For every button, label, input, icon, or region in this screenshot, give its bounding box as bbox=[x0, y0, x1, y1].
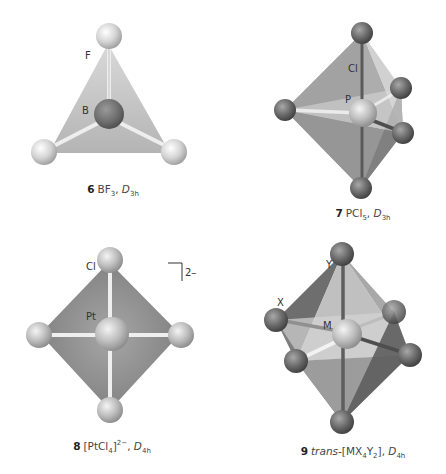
atom-cl-equatorial-left bbox=[274, 99, 296, 121]
label-m: M bbox=[323, 320, 332, 331]
atom-cl-axial-bottom bbox=[350, 177, 372, 199]
atom-b-central bbox=[94, 99, 124, 129]
atom-x-left bbox=[264, 308, 288, 332]
atom-cl-top bbox=[97, 247, 123, 273]
label-cl: Cl bbox=[348, 63, 358, 74]
atom-x-back bbox=[382, 300, 406, 324]
atom-f-top bbox=[96, 23, 122, 49]
molecule-ptcl4: Cl Pt 2– bbox=[26, 247, 196, 423]
label-y: Y bbox=[325, 259, 333, 270]
atom-p-central bbox=[349, 99, 377, 127]
figure-canvas: F B Cl P Cl Pt 2– bbox=[0, 0, 446, 474]
atom-y-bottom bbox=[330, 410, 354, 434]
charge-bracket bbox=[168, 263, 182, 281]
label-cl: Cl bbox=[86, 261, 96, 272]
label-b: B bbox=[82, 105, 89, 116]
atom-pt-central bbox=[95, 317, 129, 351]
caption-bf3: 6BF3, D3h bbox=[87, 183, 139, 198]
atom-cl-axial-top bbox=[351, 22, 373, 44]
atom-x-right bbox=[398, 343, 422, 367]
caption-mx4y2: 9trans-[MX4Y2], D4h bbox=[301, 445, 406, 460]
label-f: F bbox=[85, 50, 91, 61]
label-x: X bbox=[277, 297, 284, 308]
atom-cl-left bbox=[26, 322, 52, 348]
atom-x-front bbox=[284, 349, 308, 373]
caption-ptcl4: 8[PtCl4]2−, D4h bbox=[73, 439, 151, 455]
atom-cl-right bbox=[168, 322, 194, 348]
label-p: P bbox=[345, 94, 351, 105]
label-pt: Pt bbox=[86, 311, 96, 322]
atom-m-central bbox=[332, 319, 362, 349]
molecule-bf3: F B bbox=[31, 23, 187, 165]
atom-cl-bottom bbox=[97, 397, 123, 423]
molecule-pcl5: Cl P bbox=[274, 22, 414, 199]
molecule-mx4y2: Y X M bbox=[264, 242, 422, 434]
charge-label: 2– bbox=[185, 267, 196, 278]
atom-y-top bbox=[330, 242, 354, 266]
caption-pcl5: 7PCl5, D3h bbox=[335, 207, 390, 222]
atom-f-left bbox=[31, 139, 57, 165]
atom-cl-equatorial-back bbox=[390, 77, 412, 99]
atom-f-right bbox=[161, 139, 187, 165]
atom-cl-equatorial-front bbox=[392, 122, 414, 144]
